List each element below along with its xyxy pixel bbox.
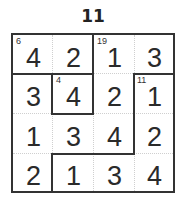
cell-value: 2 [66, 43, 81, 74]
cell-value: 2 [107, 82, 122, 113]
puzzle-title: 11 [0, 6, 186, 26]
puzzle-grid: 6 4 2 19 1 3 3 4 4 2 11 1 1 3 4 2 2 1 [11, 33, 175, 193]
cell-value: 4 [66, 82, 81, 113]
cell-value: 1 [26, 122, 41, 153]
cage-clue: 6 [16, 36, 21, 46]
cell-r2c3[interactable]: 2 [134, 114, 175, 154]
cell-value: 3 [66, 122, 81, 153]
cell-r2c0[interactable]: 1 [13, 114, 54, 154]
cage-clue: 4 [56, 75, 61, 85]
cell-r0c2[interactable]: 19 1 [94, 35, 135, 75]
cell-value: 4 [147, 161, 162, 192]
cell-r3c3[interactable]: 4 [134, 153, 175, 193]
cell-r0c1[interactable]: 2 [53, 35, 94, 75]
cell-value: 3 [107, 161, 122, 192]
cell-r2c2[interactable]: 4 [94, 114, 135, 154]
cell-r3c2[interactable]: 3 [94, 153, 135, 193]
cell-value: 2 [147, 122, 162, 153]
cell-value: 1 [107, 43, 122, 74]
cell-value: 1 [66, 161, 81, 192]
cell-r1c3[interactable]: 11 1 [134, 74, 175, 114]
cage-clue: 19 [97, 36, 107, 46]
cell-value: 4 [26, 43, 41, 74]
cell-r3c0[interactable]: 2 [13, 153, 54, 193]
cell-value: 4 [107, 122, 122, 153]
cell-r0c3[interactable]: 3 [134, 35, 175, 75]
cell-value: 3 [26, 82, 41, 113]
cell-r1c0[interactable]: 3 [13, 74, 54, 114]
cell-r1c2[interactable]: 2 [94, 74, 135, 114]
cage-clue: 11 [137, 75, 146, 85]
cell-r3c1[interactable]: 1 [53, 153, 94, 193]
cell-value: 3 [147, 43, 162, 74]
cell-value: 2 [26, 161, 41, 192]
cell-r2c1[interactable]: 3 [53, 114, 94, 154]
cell-r1c1[interactable]: 4 4 [53, 74, 94, 114]
cell-r0c0[interactable]: 6 4 [13, 35, 54, 75]
cell-value: 1 [147, 82, 162, 113]
